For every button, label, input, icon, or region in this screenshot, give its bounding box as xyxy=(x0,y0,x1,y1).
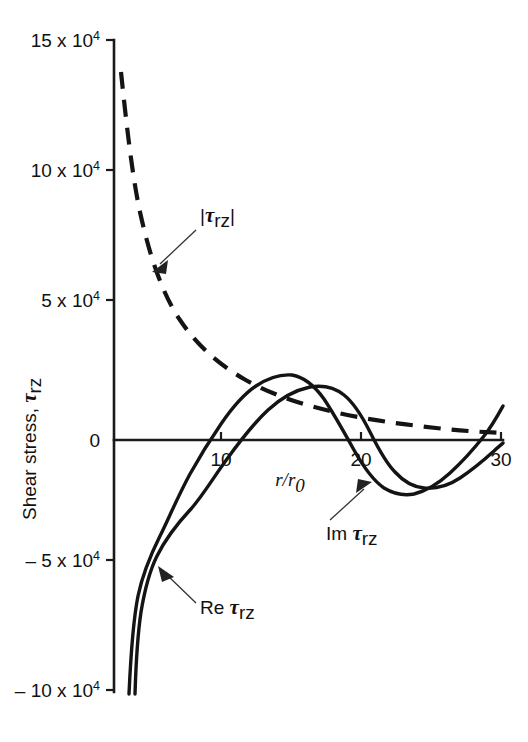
annotation-abs-tau-label: |τrz| xyxy=(200,203,235,231)
y-axis-title: Shear stress, τrz xyxy=(17,378,45,520)
chart-svg: 15 x 104 10 x 104 5 x 104 0 – 5 x 104 – … xyxy=(0,0,528,742)
annotation-re-tau: Re τrz xyxy=(158,566,255,623)
curve-im-tau xyxy=(135,386,503,694)
curve-abs-tau xyxy=(121,72,503,433)
curve-re-tau xyxy=(129,375,503,694)
y-tick-label-minus50000: – 5 x 104 xyxy=(25,549,100,571)
annotation-im-tau: Im τrz xyxy=(326,479,378,549)
y-tick-label-150000: 15 x 104 xyxy=(31,29,100,51)
y-tick-label-100000: 10 x 104 xyxy=(31,159,100,181)
y-tick-label-0: 0 xyxy=(89,430,100,451)
annotation-re-tau-label: Re τrz xyxy=(200,595,255,623)
y-tick-label-50000: 5 x 104 xyxy=(41,289,100,311)
arrowhead-im-icon xyxy=(356,479,372,493)
annotation-abs-tau: |τrz| xyxy=(152,203,235,274)
x-axis-title: r/r0 xyxy=(275,469,305,496)
annotation-im-tau-label: Im τrz xyxy=(326,521,378,549)
y-tick-label-minus100000: – 10 x 104 xyxy=(15,679,100,701)
figure-container: 15 x 104 10 x 104 5 x 104 0 – 5 x 104 – … xyxy=(0,0,528,742)
